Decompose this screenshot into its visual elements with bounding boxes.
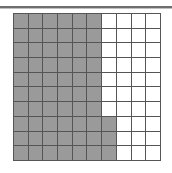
grid-cell-shaded bbox=[29, 29, 43, 43]
grid-cell-shaded bbox=[58, 43, 72, 57]
grid-cell-empty bbox=[132, 73, 146, 87]
grid-cell-shaded bbox=[58, 87, 72, 101]
grid-cell-empty bbox=[117, 132, 131, 146]
grid-cell-shaded bbox=[14, 29, 28, 43]
grid-cell-shaded bbox=[29, 102, 43, 116]
grid-cell-empty bbox=[117, 14, 131, 28]
grid-cell-empty bbox=[102, 43, 116, 57]
grid-cell-empty bbox=[146, 132, 160, 146]
grid-cell-shaded bbox=[43, 43, 57, 57]
grid-cell-shaded bbox=[43, 14, 57, 28]
grid-cell-empty bbox=[132, 87, 146, 101]
grid-cell-empty bbox=[132, 43, 146, 57]
grid-cell-empty bbox=[117, 146, 131, 160]
grid-cell-shaded bbox=[58, 14, 72, 28]
grid-cell-shaded bbox=[58, 58, 72, 72]
grid-cell-empty bbox=[117, 73, 131, 87]
grid-cell-empty bbox=[102, 102, 116, 116]
grid-cell-shaded bbox=[14, 43, 28, 57]
grid-cell-shaded bbox=[87, 117, 101, 131]
grid-cell-empty bbox=[102, 58, 116, 72]
grid-cell-shaded bbox=[29, 87, 43, 101]
grid-cell-empty bbox=[146, 58, 160, 72]
grid-cell-shaded bbox=[87, 58, 101, 72]
grid-cell-shaded bbox=[87, 73, 101, 87]
grid-cell-shaded bbox=[29, 146, 43, 160]
grid-cell-shaded bbox=[102, 132, 116, 146]
grid-cell-shaded bbox=[43, 102, 57, 116]
grid-cell-shaded bbox=[29, 73, 43, 87]
grid-cell-shaded bbox=[87, 132, 101, 146]
grid-cell-shaded bbox=[73, 73, 87, 87]
grid-cell-shaded bbox=[73, 43, 87, 57]
grid-cell-empty bbox=[102, 14, 116, 28]
grid-cell-empty bbox=[132, 117, 146, 131]
grid-cell-shaded bbox=[29, 117, 43, 131]
grid-cell-empty bbox=[117, 29, 131, 43]
grid-cell-shaded bbox=[29, 43, 43, 57]
grid-cell-empty bbox=[146, 29, 160, 43]
grid-cell-shaded bbox=[73, 146, 87, 160]
grid-cell-empty bbox=[102, 73, 116, 87]
grid-cell-shaded bbox=[73, 58, 87, 72]
grid-cell-shaded bbox=[73, 29, 87, 43]
grid-cell-empty bbox=[146, 117, 160, 131]
grid-cell-shaded bbox=[73, 132, 87, 146]
grid-cell-shaded bbox=[102, 146, 116, 160]
grid-cell-empty bbox=[146, 14, 160, 28]
grid-cell-empty bbox=[132, 146, 146, 160]
grid-cell-shaded bbox=[43, 146, 57, 160]
grid-cell-empty bbox=[132, 14, 146, 28]
grid-cell-shaded bbox=[14, 102, 28, 116]
grid-cell-shaded bbox=[58, 146, 72, 160]
grid-cell-shaded bbox=[87, 43, 101, 57]
grid-cell-shaded bbox=[43, 29, 57, 43]
grid-cell-shaded bbox=[14, 14, 28, 28]
grid-cell-empty bbox=[102, 29, 116, 43]
figure-root bbox=[0, 0, 172, 173]
grid-cell-shaded bbox=[14, 117, 28, 131]
grid-cell-shaded bbox=[73, 117, 87, 131]
grid-cell-shaded bbox=[58, 73, 72, 87]
grid-cell-shaded bbox=[87, 14, 101, 28]
grid-cell-shaded bbox=[14, 58, 28, 72]
grid-cell-shaded bbox=[87, 87, 101, 101]
grid-cell-shaded bbox=[29, 14, 43, 28]
grid-cell-shaded bbox=[87, 29, 101, 43]
grid-cell-shaded bbox=[43, 73, 57, 87]
grid-cell-shaded bbox=[43, 58, 57, 72]
grid-cell-empty bbox=[132, 58, 146, 72]
grid-cell-shaded bbox=[14, 132, 28, 146]
grid-cell-empty bbox=[117, 117, 131, 131]
grid-border bbox=[13, 13, 161, 161]
grid-cell-empty bbox=[146, 146, 160, 160]
grid-cell-empty bbox=[117, 102, 131, 116]
grid-cell-shaded bbox=[14, 146, 28, 160]
grid-cell-shaded bbox=[73, 102, 87, 116]
grid-cell-empty bbox=[146, 87, 160, 101]
grid-cell-shaded bbox=[87, 146, 101, 160]
grid-cell-shaded bbox=[58, 117, 72, 131]
grid-cell-empty bbox=[102, 87, 116, 101]
grid-cell-empty bbox=[146, 73, 160, 87]
grid-cell-empty bbox=[146, 43, 160, 57]
grid-cell-empty bbox=[132, 29, 146, 43]
grid-cell-empty bbox=[132, 132, 146, 146]
grid-cell-shaded bbox=[14, 87, 28, 101]
grid-cell-shaded bbox=[29, 58, 43, 72]
grid-cell-shaded bbox=[14, 73, 28, 87]
grid-cell-empty bbox=[117, 58, 131, 72]
grid-cell-empty bbox=[146, 102, 160, 116]
grid-cell-shaded bbox=[29, 132, 43, 146]
grid-cell-shaded bbox=[102, 117, 116, 131]
grid-cell-shaded bbox=[43, 87, 57, 101]
grid-cell-shaded bbox=[58, 102, 72, 116]
grid-cell-shaded bbox=[73, 87, 87, 101]
top-divider-rule-highlight bbox=[0, 8, 172, 9]
grid-cell-shaded bbox=[58, 132, 72, 146]
grid-cell-shaded bbox=[58, 29, 72, 43]
grid-cell-shaded bbox=[73, 14, 87, 28]
grid-cell-shaded bbox=[43, 132, 57, 146]
shaded-grid bbox=[14, 14, 160, 160]
grid-cell-shaded bbox=[43, 117, 57, 131]
